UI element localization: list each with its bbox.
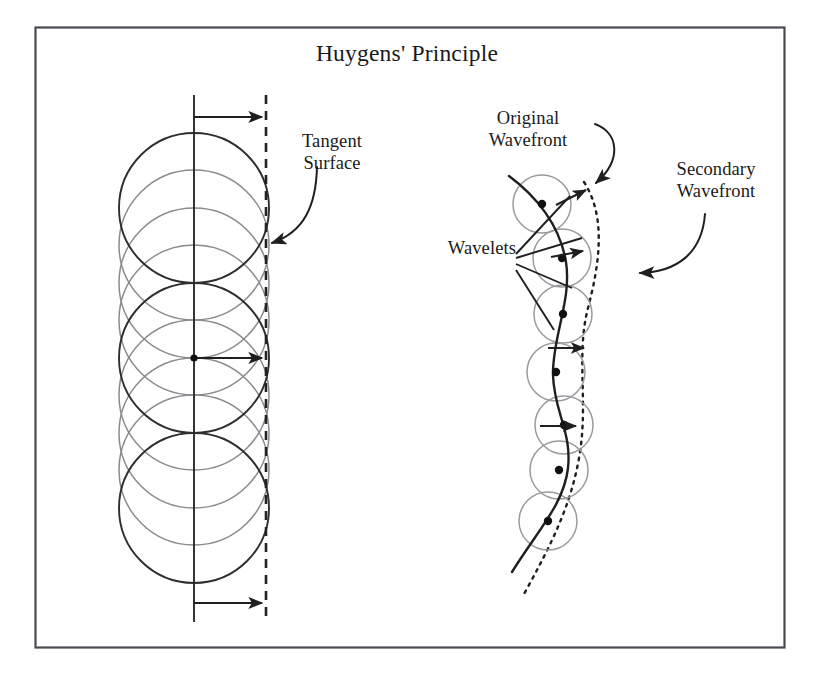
huygens-principle-figure: Huygens' Principle Tangent Surface Origi… bbox=[0, 0, 814, 674]
diagram-canvas bbox=[0, 0, 814, 674]
wavelets-label: Wavelets bbox=[406, 238, 516, 260]
secondary-wavefront-label: Secondary Wavefront bbox=[640, 159, 792, 203]
tangent-surface-pointer-arrow bbox=[272, 167, 317, 243]
tangent-surface-label: Tangent Surface bbox=[268, 131, 396, 175]
figure-border bbox=[36, 28, 785, 648]
original-wavefront-label: Original Wavefront bbox=[452, 108, 604, 152]
source-point-dot bbox=[190, 354, 197, 361]
page-title: Huygens' Principle bbox=[0, 40, 814, 67]
secondary-wavefront-pointer-arrow bbox=[640, 214, 705, 273]
